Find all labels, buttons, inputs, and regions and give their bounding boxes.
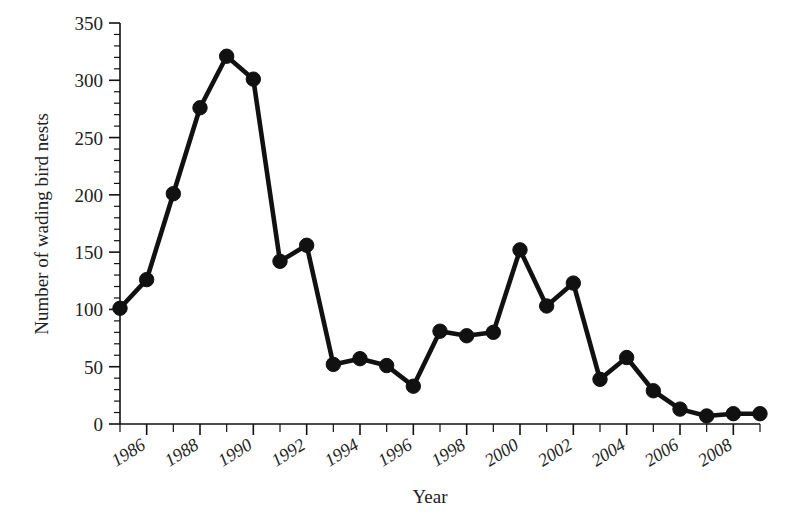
data-point	[273, 254, 287, 268]
x-tick-label: 2006	[641, 434, 682, 470]
y-tick-label: 50	[84, 357, 103, 378]
data-point	[379, 358, 393, 372]
x-tick-label: 2002	[534, 434, 575, 470]
data-point	[166, 187, 180, 201]
x-axis-group: 1986198819901992199419961998200020022004…	[108, 424, 760, 507]
y-tick-label: 150	[75, 242, 104, 263]
x-tick-label: 2000	[481, 434, 522, 470]
data-point	[539, 299, 553, 313]
y-axis-tick-labels: 050100150200250300350	[75, 13, 104, 435]
x-tick-label: 1998	[428, 434, 469, 470]
data-point	[459, 329, 473, 343]
data-point	[726, 406, 740, 420]
data-point	[299, 238, 313, 252]
x-tick-label: 1990	[214, 434, 255, 470]
y-tick-label: 100	[75, 299, 104, 320]
y-axis-ticks	[109, 23, 120, 424]
data-point	[219, 49, 233, 63]
x-tick-label: 1996	[374, 434, 415, 470]
data-point	[646, 384, 660, 398]
data-point	[193, 101, 207, 115]
y-tick-label: 350	[75, 13, 104, 34]
data-point	[619, 350, 633, 364]
y-axis-title: Number of wading bird nests	[31, 113, 52, 335]
data-point	[406, 379, 420, 393]
data-point	[566, 276, 580, 290]
x-tick-label: 1992	[268, 434, 309, 470]
x-axis-title: Year	[412, 486, 448, 507]
data-point	[113, 301, 127, 315]
data-point	[246, 72, 260, 86]
y-tick-label: 300	[75, 70, 104, 91]
x-tick-label: 1988	[161, 434, 202, 470]
x-tick-label: 2004	[588, 434, 629, 470]
y-tick-label: 0	[94, 414, 104, 435]
series-markers	[113, 49, 767, 423]
data-point	[486, 325, 500, 339]
x-tick-label: 1994	[321, 434, 362, 470]
data-point	[353, 351, 367, 365]
data-series-group	[113, 49, 767, 423]
data-point	[139, 272, 153, 286]
line-chart-svg: 050100150200250300350 Number of wading b…	[0, 0, 796, 525]
series-line	[120, 56, 760, 416]
data-point	[699, 409, 713, 423]
y-tick-label: 200	[75, 185, 104, 206]
data-point	[513, 243, 527, 257]
data-point	[433, 324, 447, 338]
y-axis-group: 050100150200250300350 Number of wading b…	[31, 13, 120, 435]
data-point	[326, 357, 340, 371]
y-tick-label: 250	[75, 128, 104, 149]
x-tick-label: 2008	[694, 434, 735, 470]
x-axis-ticks	[120, 424, 760, 435]
data-point	[753, 406, 767, 420]
data-point	[593, 372, 607, 386]
x-tick-label: 1986	[108, 434, 149, 470]
data-point	[673, 402, 687, 416]
x-axis-tick-labels: 1986198819901992199419961998200020022004…	[108, 434, 736, 470]
chart-figure: 050100150200250300350 Number of wading b…	[0, 0, 796, 525]
